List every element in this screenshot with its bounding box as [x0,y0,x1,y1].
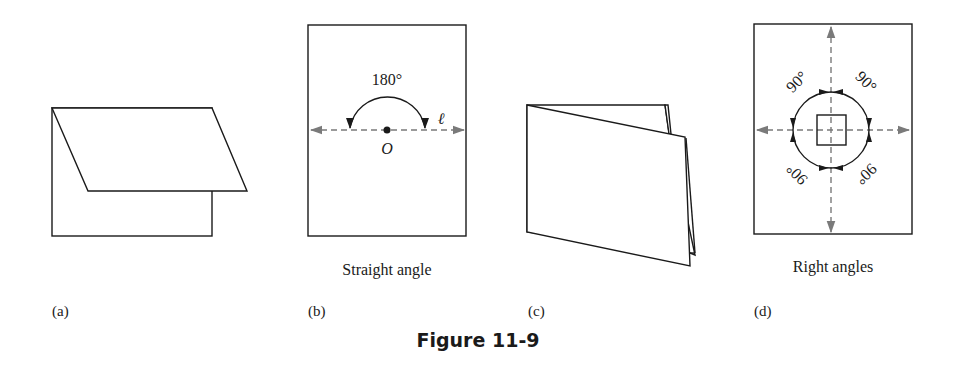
angle-label-90-bottom-left: 90° [783,160,811,188]
figure-title: Figure 11-9 [416,329,539,351]
panel-d-right-angles: 90° 90° 90° 90° [754,24,912,234]
line-label-l: ℓ [438,110,445,127]
point-o-dot [384,127,391,134]
arc-arrowhead-left [346,118,354,129]
figure-canvas: (a) 180° O ℓ Straight angle (b) (c) [0,0,956,370]
paper-rectangle [754,24,912,234]
angle-label-90-bottom-right: 90° [852,160,880,188]
angle-label-180: 180° [372,71,402,88]
angle-label-90-top-right: 90° [852,68,880,96]
panel-b-straight-angle: 180° O ℓ [308,25,466,236]
panel-c-double-fold [527,105,695,266]
arc-arrowhead-right [421,118,429,129]
point-label-o: O [381,140,393,157]
panel-b-label: (b) [308,303,326,320]
angle-label-90-top-left: 90° [783,68,811,96]
panel-a-label: (a) [52,303,69,320]
panel-b-caption: Straight angle [342,261,431,279]
panel-d-label: (d) [754,303,772,320]
panel-a-folded-paper [52,108,247,236]
panel-d-caption: Right angles [793,258,873,276]
angle-arc-180 [350,97,425,128]
panel-c-label: (c) [528,303,545,320]
